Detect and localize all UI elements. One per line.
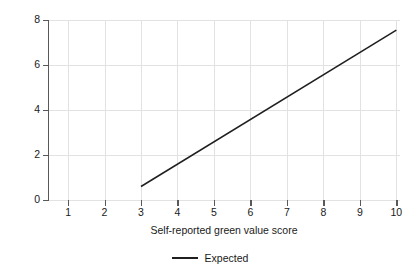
series-line-expected (141, 30, 396, 186)
y-tick-mark (43, 20, 49, 21)
y-tick-mark (43, 155, 49, 156)
legend-label-expected: Expected (205, 252, 249, 264)
x-tick-label: 7 (275, 206, 299, 218)
plot-area (48, 20, 400, 200)
x-tick-label: 5 (202, 206, 226, 218)
gridline-horizontal (48, 200, 400, 201)
y-tick-label: 4 (20, 104, 40, 115)
x-axis-title: Self-reported green value score (48, 224, 400, 236)
x-tick-label: 3 (129, 206, 153, 218)
x-tick-label: 1 (56, 206, 80, 218)
x-tick-label: 2 (93, 206, 117, 218)
legend: Expected (0, 252, 420, 264)
y-tick-label: 8 (20, 14, 40, 25)
y-tick-mark (43, 65, 49, 66)
legend-line-swatch-expected (172, 257, 198, 259)
y-tick-label: 6 (20, 59, 40, 70)
x-tick-label: 6 (238, 206, 262, 218)
x-tick-label: 9 (348, 206, 372, 218)
chart-figure: Green actions during last 6 months 02468… (0, 0, 420, 280)
y-tick-mark (43, 110, 49, 111)
series-layer (48, 20, 400, 200)
y-tick-label: 0 (20, 194, 40, 205)
y-tick-label: 2 (20, 149, 40, 160)
x-tick-label: 4 (165, 206, 189, 218)
y-tick-mark (43, 200, 49, 201)
x-tick-label: 10 (384, 206, 408, 218)
x-tick-label: 8 (311, 206, 335, 218)
